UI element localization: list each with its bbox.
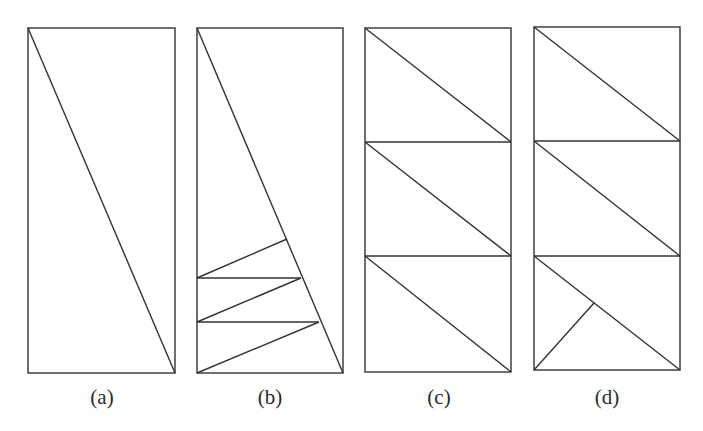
panel-border: [365, 28, 511, 372]
panel-label-d: (d): [595, 385, 620, 409]
mesh-edge: [534, 27, 680, 141]
mesh-edge: [365, 142, 511, 256]
mesh-edge: [534, 141, 680, 256]
panel-label-a: (a): [90, 385, 113, 409]
mesh-edge: [197, 278, 301, 322]
panel-a: [28, 28, 175, 373]
mesh-edge: [365, 256, 511, 372]
mesh-edge: [365, 28, 511, 142]
mesh-edge: [197, 322, 319, 373]
mesh-edge: [197, 239, 287, 278]
mesh-edge: [534, 303, 594, 370]
mesh-edge: [28, 28, 175, 373]
panel-c: [365, 28, 511, 372]
panel-b: [197, 28, 343, 373]
mesh-edge: [197, 28, 343, 373]
mesh-edge: [534, 256, 680, 370]
panel-d: [534, 27, 680, 370]
panel-label-b: (b): [258, 385, 283, 409]
mesh-refinement-figure: (a) (b) (c) (d): [0, 0, 703, 431]
panel-label-c: (c): [427, 385, 450, 409]
